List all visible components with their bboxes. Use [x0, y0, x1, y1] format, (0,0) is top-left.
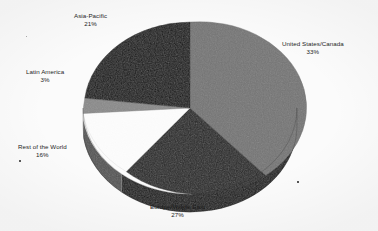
scan-speck-artifact: [19, 160, 21, 162]
slice-asia-pacific: [85, 22, 190, 108]
slice-label-name: Latin America: [26, 68, 64, 76]
pie-chart-graphic: [0, 0, 378, 231]
slice-label-asia-pacific: Asia-Pacific 21%: [74, 12, 107, 29]
slice-label-percent: 3%: [26, 76, 64, 84]
slice-label-name: United States/Canada: [282, 40, 344, 48]
slice-label-united-states-canada: United States/Canada 33%: [282, 40, 344, 57]
scan-speck-artifact: [297, 181, 299, 183]
slice-label-percent: 33%: [282, 48, 344, 56]
slice-label-percent: 16%: [18, 151, 67, 159]
slice-label-name: Europe/Middle East: [150, 203, 205, 211]
slice-label-name: Asia-Pacific: [74, 12, 107, 20]
pie-top-face: [83, 22, 306, 195]
slice-label-europe-middle-east: Europe/Middle East 27%: [150, 203, 205, 220]
slice-label-percent: 27%: [150, 211, 205, 219]
slice-label-rest-of-the-world: Rest of the World 16%: [18, 143, 67, 160]
slice-label-percent: 21%: [74, 20, 107, 28]
slice-label-latin-america: Latin America 3%: [26, 68, 64, 85]
slice-label-name: Rest of the World: [18, 143, 67, 151]
pie-chart-figure: United States/Canada 33% Europe/Middle E…: [0, 0, 378, 231]
